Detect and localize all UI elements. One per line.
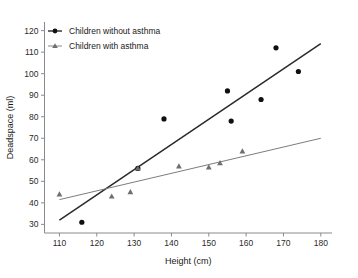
x-tick-label: 150	[202, 238, 216, 248]
y-axis-title: Deadspace (ml)	[5, 96, 15, 160]
data-point	[57, 191, 63, 196]
legend-marker	[53, 29, 58, 34]
chart-figure: 30405060708090100110120 1101201301401501…	[0, 0, 358, 278]
y-axis-ticks: 30405060708090100110120	[24, 26, 44, 230]
x-tick-label: 160	[239, 238, 253, 248]
data-point	[225, 88, 230, 93]
y-tick-label: 40	[29, 198, 39, 208]
data-point	[273, 45, 278, 50]
data-point	[176, 163, 182, 168]
y-tick-label: 30	[29, 219, 39, 229]
regression-lines	[59, 44, 320, 221]
regression-line	[59, 44, 320, 221]
data-point	[161, 116, 166, 121]
data-point	[296, 69, 301, 74]
x-tick-label: 110	[53, 238, 67, 248]
x-tick-label: 120	[90, 238, 104, 248]
legend-label: Children with asthma	[69, 41, 149, 51]
y-tick-label: 120	[24, 26, 38, 36]
data-point	[239, 148, 245, 153]
x-tick-label: 130	[127, 238, 141, 248]
data-point	[258, 97, 263, 102]
y-tick-label: 80	[29, 112, 39, 122]
data-point	[79, 220, 84, 225]
regression-line	[59, 138, 320, 199]
data-point	[229, 118, 234, 123]
chart-legend: Children without asthmaChildren with ast…	[48, 26, 160, 51]
y-tick-label: 100	[24, 69, 38, 79]
x-tick-label: 170	[276, 238, 290, 248]
scatter-plot: 30405060708090100110120 1101201301401501…	[0, 0, 358, 278]
x-axis-title: Height (cm)	[165, 256, 212, 266]
y-tick-label: 110	[25, 47, 39, 57]
legend-label: Children without asthma	[69, 26, 160, 36]
y-tick-label: 90	[29, 90, 39, 100]
x-tick-label: 140	[164, 238, 178, 248]
x-tick-label: 180	[314, 238, 328, 248]
data-point	[109, 193, 115, 198]
y-tick-label: 60	[29, 155, 39, 165]
data-point	[127, 189, 133, 194]
x-axis-ticks: 110120130140150160170180	[53, 233, 329, 248]
y-tick-label: 50	[29, 176, 39, 186]
y-tick-label: 70	[29, 133, 39, 143]
